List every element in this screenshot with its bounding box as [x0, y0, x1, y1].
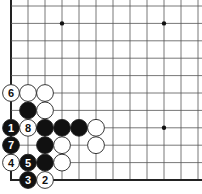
white-stone-8: 8: [20, 119, 37, 136]
black-stone: [20, 102, 37, 119]
black-stone-5: 5: [20, 154, 37, 171]
white-stone: [37, 85, 54, 102]
move-number: 5: [25, 157, 31, 169]
black-stone-3: 3: [20, 172, 37, 189]
move-number: 3: [25, 174, 31, 186]
white-stone: [88, 137, 105, 154]
white-stone: [88, 119, 105, 136]
move-number: 2: [42, 174, 48, 186]
white-stone-4: 4: [3, 154, 20, 171]
move-number: 8: [25, 122, 31, 134]
move-number: 6: [8, 87, 14, 99]
white-stone-2: 2: [37, 172, 54, 189]
black-stone: [71, 119, 88, 136]
stones: 61874532: [3, 85, 105, 189]
move-number: 7: [8, 139, 14, 151]
white-stone: [54, 137, 71, 154]
white-stone-6: 6: [3, 85, 20, 102]
black-stone-7: 7: [3, 137, 20, 154]
black-stone-1: 1: [3, 119, 20, 136]
black-stone: [54, 119, 71, 136]
hoshi-point: [60, 21, 64, 25]
white-stone: [20, 85, 37, 102]
hoshi-point: [162, 126, 166, 130]
move-number: 1: [8, 122, 14, 134]
black-stone: [37, 154, 54, 171]
go-board: 61874532: [0, 0, 202, 194]
white-stone: [37, 102, 54, 119]
black-stone: [37, 137, 54, 154]
hoshi-point: [162, 21, 166, 25]
black-stone: [37, 119, 54, 136]
white-stone: [54, 154, 71, 171]
move-number: 4: [8, 157, 15, 169]
